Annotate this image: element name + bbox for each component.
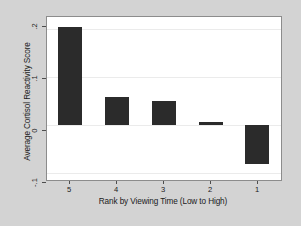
x-tick-label-3: 2	[200, 185, 220, 194]
bar	[199, 122, 223, 125]
y-axis-title: Average Cortisol Reactivity Score	[23, 17, 32, 187]
gridline-0	[47, 29, 281, 30]
bar	[105, 97, 129, 125]
plot-area	[46, 16, 282, 181]
x-tick-label-4: 1	[247, 185, 267, 194]
chart-figure: Average Cortisol Reactivity Score Rank b…	[0, 0, 301, 226]
x-tick-mark-2	[163, 181, 164, 184]
bar	[58, 27, 82, 125]
y-tick-label-0: .2	[30, 17, 39, 37]
x-tick-mark-3	[210, 181, 211, 184]
bar	[152, 101, 176, 125]
x-tick-label-0: 5	[59, 185, 79, 194]
gridline-3	[47, 173, 281, 174]
y-tick-mark-3	[42, 182, 46, 183]
x-tick-mark-0	[69, 181, 70, 184]
y-tick-label-1: .1	[30, 69, 39, 89]
x-tick-mark-4	[257, 181, 258, 184]
x-tick-mark-1	[116, 181, 117, 184]
y-tick-label-3: -.1	[30, 173, 39, 193]
bar	[245, 125, 269, 164]
gridline-1	[47, 77, 281, 78]
x-axis-title: Rank by Viewing Time (Low to High)	[44, 197, 282, 206]
x-tick-label-1: 4	[106, 185, 126, 194]
y-tick-label-2: 0	[30, 121, 39, 141]
x-tick-label-2: 3	[153, 185, 173, 194]
